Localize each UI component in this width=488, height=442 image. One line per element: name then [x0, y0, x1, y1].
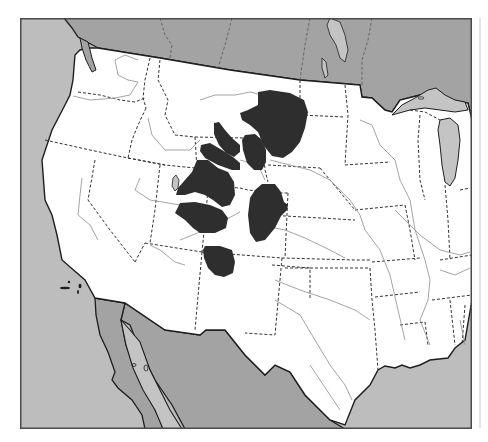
- range-map: Distribution range map, western United S…: [20, 18, 472, 429]
- page-edge-line: [479, 18, 481, 428]
